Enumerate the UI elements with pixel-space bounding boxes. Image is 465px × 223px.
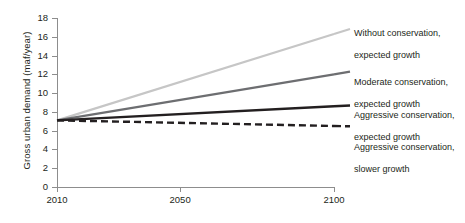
series-leader-2 bbox=[334, 105, 350, 106]
series-label-without-conservation: Without conservation, expected growth bbox=[354, 17, 441, 61]
series-label-line1: Aggressive conservation, bbox=[354, 142, 455, 152]
urban-demand-line-chart: Gross urban demand (maf/year) 0246810121… bbox=[0, 0, 465, 223]
series-label-line2: slower growth bbox=[354, 164, 410, 174]
series-line-3 bbox=[57, 120, 334, 126]
series-label-line1: Aggressive conservation, bbox=[354, 110, 455, 120]
series-leader-0 bbox=[334, 29, 350, 34]
series-label-aggressive-slower: Aggressive conservation, slower growth bbox=[354, 131, 455, 175]
series-label-line2: expected growth bbox=[354, 50, 420, 60]
series-label-line1: Without conservation, bbox=[354, 28, 441, 38]
series-leader-1 bbox=[334, 72, 350, 75]
series-group bbox=[57, 29, 350, 126]
series-label-line1: Moderate conservation, bbox=[354, 77, 448, 87]
